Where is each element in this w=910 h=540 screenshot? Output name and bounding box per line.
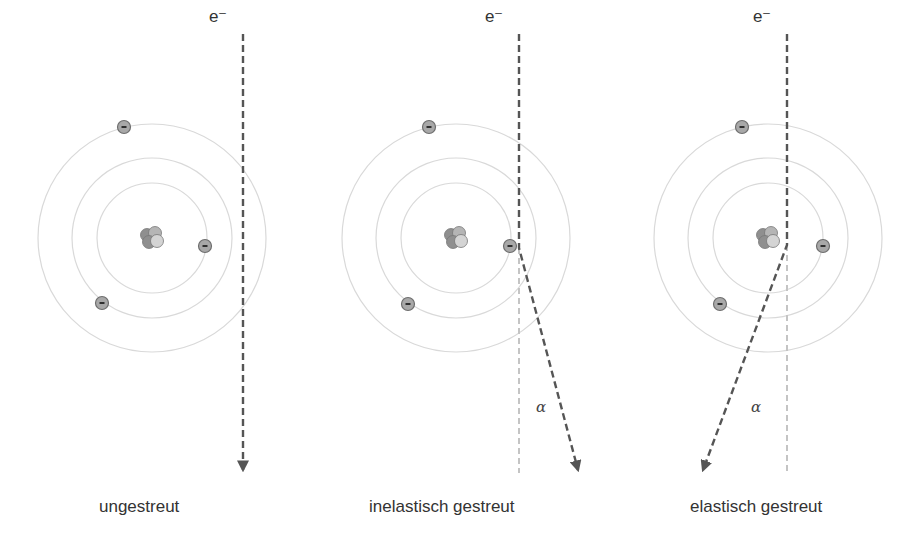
angle-alpha-inelastic: α [536,398,546,416]
caption-elastic: elastisch gestreut [690,497,822,517]
diagram-canvas [0,0,910,540]
nucleon [455,235,468,248]
nucleon [151,235,164,248]
nucleon [767,235,780,248]
angle-alpha-elastic: α [751,398,761,416]
electron-symbol-inelastic: e⁻ [485,6,503,27]
electron-symbol-unscattered: e⁻ [209,6,227,27]
electron-scattering-diagram: e⁻ ungestreut e⁻ α inelastisch gestreut … [0,0,910,540]
caption-unscattered: ungestreut [99,497,179,517]
electron-path-arrow [703,34,787,470]
caption-inelastic: inelastisch gestreut [369,497,515,517]
electron-symbol-elastic: e⁻ [753,6,771,27]
